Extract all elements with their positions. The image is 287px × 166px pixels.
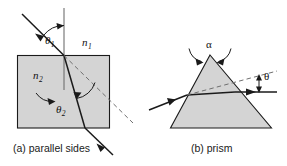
panel-parallel-sides: θ1 n1 n2 θ2 (a) parallel sides [13, 8, 133, 155]
deviation-angle-label: θ [264, 70, 269, 82]
apex-arrow-left-head [196, 59, 204, 66]
apex-arrow-left [189, 49, 202, 62]
caption-prism: (b) prism [191, 142, 233, 154]
index-outside-label: n1 [82, 36, 92, 51]
figure-canvas: θ1 n1 n2 θ2 (a) parallel sides [0, 0, 287, 166]
theta1-arc-arrowhead [57, 23, 65, 30]
refraction-figure: θ1 n1 n2 θ2 (a) parallel sides [0, 0, 287, 166]
prism-emergent-ray-arrowhead [246, 89, 256, 96]
emergent-ray-arrowhead [97, 144, 106, 153]
apex-arrow-right [219, 49, 232, 62]
panel-prism: α θ (b) prism [149, 38, 277, 154]
deviation-marker-arrowhead-top [256, 74, 262, 81]
n2-subscript: 2 [39, 75, 43, 84]
caption-parallel-sides: (a) parallel sides [13, 142, 90, 154]
n1-subscript: 1 [88, 42, 92, 51]
apex-angle-label: α [206, 38, 212, 50]
theta1-subscript: 1 [51, 40, 55, 49]
theta2-subscript: 2 [62, 109, 66, 118]
incident-ray [22, 14, 64, 56]
theta1-label: θ1 [45, 34, 55, 49]
